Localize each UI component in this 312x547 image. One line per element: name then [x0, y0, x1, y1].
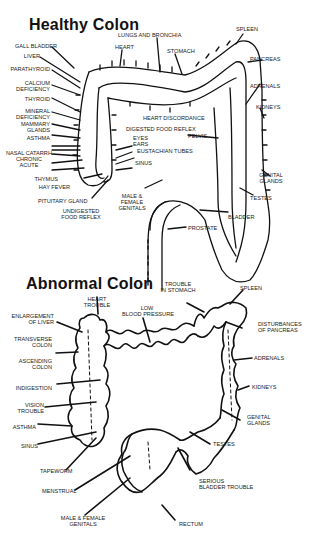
label-heart-trouble: HEART TROUBLE [82, 296, 112, 308]
label-tapeworm: TAPEWORM [40, 468, 73, 474]
abnormal-colon-drawing [0, 0, 312, 547]
label-spleen-abnormal: SPLEEN [240, 285, 262, 291]
label-ascending-colon: ASCENDING COLON [4, 358, 52, 370]
label-kidneys-abnormal: KIDNEYS [252, 384, 277, 390]
label-asthma-abnormal: ASTHMA [4, 424, 36, 430]
label-male-female-genitals-abnormal: MALE & FEMALE GENITALS [56, 515, 110, 527]
label-disturbances-of-pancreas: DISTURBANCES OF PANCREAS [258, 321, 302, 333]
label-testes-abnormal: TESTES [213, 441, 235, 447]
label-adrenals-abnormal: ADRENALS [254, 355, 284, 361]
label-menstrual: MENSTRUAL [42, 488, 77, 494]
label-serious-bladder-trouble: SERIOUS BLADDER TROUBLE [199, 478, 253, 490]
label-low-blood-pressure: LOW BLOOD PRESSURE [122, 305, 172, 317]
label-genital-glands-abnormal: GENITAL GLANDS [247, 414, 271, 426]
label-transverse-colon: TRANSVERSE COLON [4, 336, 52, 348]
label-vision-trouble: VISION TROUBLE [4, 402, 44, 414]
label-trouble-in-stomach: TROUBLE IN STOMACH [160, 281, 196, 293]
label-indigestion: INDIGESTION [4, 385, 52, 391]
label-rectum: RECTUM [179, 521, 203, 527]
label-enlargement-of-liver: ENLARGEMENT OF LIVER [4, 313, 54, 325]
label-sinus-abnormal: SINUS [4, 443, 38, 449]
